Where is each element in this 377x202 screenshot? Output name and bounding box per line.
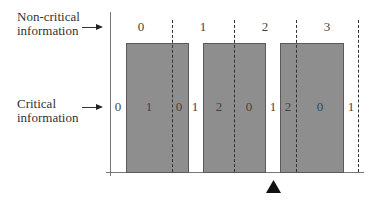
bottom-number: 0 [246, 100, 253, 114]
dashed-separator-2 [234, 20, 235, 172]
bottom-number: 1 [348, 100, 355, 114]
non-critical-label: Non-critical information [17, 10, 80, 38]
bottom-number: 2 [285, 100, 292, 114]
triangle-marker-icon [266, 180, 281, 193]
bottom-number: 2 [216, 100, 223, 114]
top-number: 0 [138, 20, 145, 34]
non-critical-arrow-icon [96, 24, 103, 30]
y-axis [110, 12, 111, 176]
non-critical-label-line2: information [17, 24, 80, 38]
top-number: 3 [324, 20, 331, 34]
bottom-number: 1 [192, 100, 199, 114]
critical-label: Critical information [17, 97, 78, 125]
dashed-separator-4 [358, 20, 359, 172]
top-number: 2 [262, 20, 269, 34]
dashed-separator-1 [172, 20, 173, 172]
critical-label-line1: Critical [17, 97, 78, 111]
bottom-number: 0 [317, 100, 324, 114]
top-number: 1 [200, 20, 207, 34]
bottom-number: 0 [115, 100, 122, 114]
bottom-number: 1 [270, 100, 277, 114]
critical-label-line2: information [17, 111, 78, 125]
bottom-number: 0 [176, 100, 183, 114]
bottom-number: 1 [146, 100, 153, 114]
non-critical-label-line1: Non-critical [17, 10, 80, 24]
dashed-separator-3 [296, 20, 297, 172]
critical-arrow-icon [96, 104, 103, 110]
